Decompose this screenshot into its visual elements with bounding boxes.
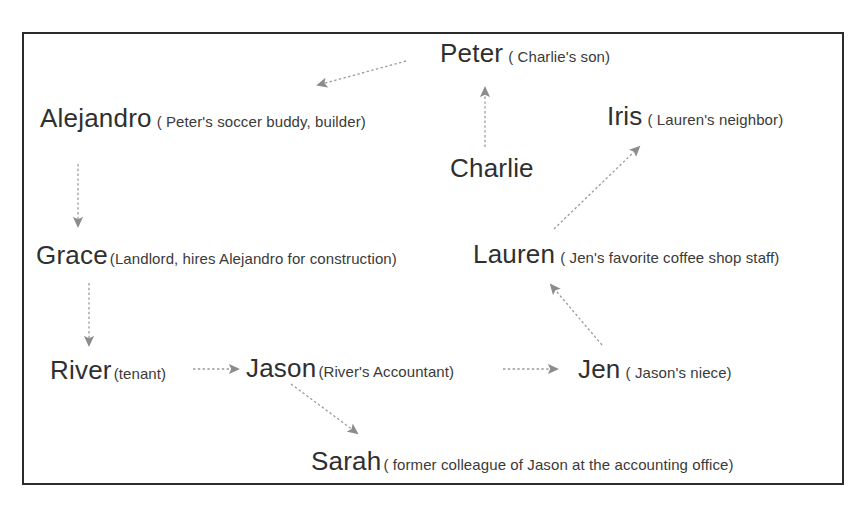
node-iris-name: Iris [607, 101, 642, 131]
node-lauren[interactable]: Lauren( Jen's favorite coffee shop staff… [473, 241, 779, 267]
diagram-canvas: Peter( Charlie's son) Alejandro( Peter's… [0, 0, 866, 510]
node-grace-descriptor: (Landlord, hires Alejandro for construct… [110, 250, 397, 267]
node-charlie[interactable]: Charlie [450, 155, 539, 181]
node-iris-descriptor: ( Lauren's neighbor) [647, 111, 783, 128]
node-sarah-descriptor: ( former colleague of Jason at the accou… [383, 456, 733, 473]
node-jason-name: Jason [246, 353, 316, 383]
node-peter-name: Peter [440, 38, 503, 68]
node-peter[interactable]: Peter( Charlie's son) [440, 40, 610, 66]
node-jason-descriptor: (River's Accountant) [318, 363, 454, 380]
node-alejandro-descriptor: ( Peter's soccer buddy, builder) [157, 113, 366, 130]
node-sarah[interactable]: Sarah( former colleague of Jason at the … [311, 448, 734, 474]
node-river-descriptor: (tenant) [114, 365, 167, 382]
node-river-name: River [50, 355, 112, 385]
node-grace[interactable]: Grace(Landlord, hires Alejandro for cons… [36, 242, 397, 268]
node-peter-descriptor: ( Charlie's son) [508, 48, 610, 65]
node-grace-name: Grace [36, 240, 108, 270]
node-alejandro[interactable]: Alejandro( Peter's soccer buddy, builder… [40, 105, 366, 131]
node-jen[interactable]: Jen( Jason's niece) [578, 356, 732, 382]
node-jason[interactable]: Jason(River's Accountant) [246, 355, 454, 381]
node-sarah-name: Sarah [311, 446, 381, 476]
node-alejandro-name: Alejandro [40, 103, 152, 133]
node-lauren-name: Lauren [473, 239, 555, 269]
node-jen-name: Jen [578, 354, 621, 384]
node-river[interactable]: River(tenant) [50, 357, 166, 383]
node-charlie-name: Charlie [450, 153, 534, 183]
node-iris[interactable]: Iris( Lauren's neighbor) [607, 103, 783, 129]
node-jen-descriptor: ( Jason's niece) [626, 364, 732, 381]
node-lauren-descriptor: ( Jen's favorite coffee shop staff) [560, 249, 779, 266]
